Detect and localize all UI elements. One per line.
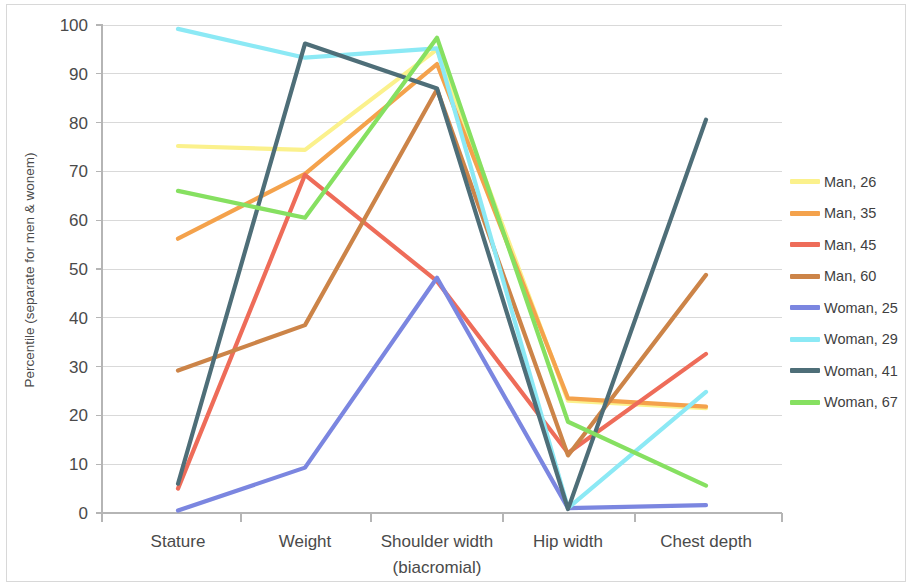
series-line-woman-25 <box>178 278 706 511</box>
line-chart-plot: 0102030405060708090100 StatureWeightShou… <box>0 0 918 587</box>
legend-item[interactable]: Woman, 25 <box>790 292 914 324</box>
y-tick-label: 0 <box>79 504 88 523</box>
legend-item-label: Man, 45 <box>824 238 876 253</box>
legend-item[interactable]: Man, 26 <box>790 166 914 198</box>
x-tick-label: Stature <box>151 532 206 551</box>
legend-item[interactable]: Man, 60 <box>790 261 914 293</box>
y-axis-title: Percentile (separate for men & wonem) <box>22 153 37 388</box>
legend-item-label: Man, 60 <box>824 269 876 284</box>
y-axis-title-group: Percentile (separate for men & wonem) <box>22 153 37 388</box>
y-tick-label: 30 <box>69 358 88 377</box>
y-axis-tick-labels: 0102030405060708090100 <box>60 16 88 523</box>
legend-color-swatch <box>790 242 820 247</box>
legend-item[interactable]: Woman, 67 <box>790 387 914 419</box>
legend-item-label: Woman, 25 <box>824 301 898 316</box>
legend-color-swatch <box>790 274 820 279</box>
y-tick-label: 50 <box>69 260 88 279</box>
legend-color-swatch <box>790 368 820 373</box>
y-tick-label: 60 <box>69 211 88 230</box>
y-tick-label: 100 <box>60 16 88 35</box>
y-tick-label: 80 <box>69 114 88 133</box>
legend-item[interactable]: Woman, 29 <box>790 324 914 356</box>
x-tick-label: Chest depth <box>660 532 752 551</box>
x-tick-label: Hip width <box>533 532 603 551</box>
x-tick-label-secondary: (biacromial) <box>393 558 482 577</box>
chart-legend: Man, 26Man, 35Man, 45Man, 60Woman, 25Wom… <box>790 166 914 418</box>
legend-item-label: Woman, 29 <box>824 332 898 347</box>
legend-color-swatch <box>790 305 820 310</box>
legend-item[interactable]: Man, 45 <box>790 229 914 261</box>
series-line-man-45 <box>178 175 706 489</box>
legend-item-label: Man, 35 <box>824 206 876 221</box>
legend-color-swatch <box>790 400 820 405</box>
legend-color-swatch <box>790 179 820 184</box>
series-line-man-35 <box>178 64 706 407</box>
legend-color-swatch <box>790 337 820 342</box>
y-tick-label: 70 <box>69 162 88 181</box>
legend-color-swatch <box>790 211 820 216</box>
chart-container: 0102030405060708090100 StatureWeightShou… <box>0 0 918 587</box>
series-line-woman-41 <box>178 44 706 510</box>
y-tick-label: 40 <box>69 309 88 328</box>
x-tick-label: Weight <box>279 532 332 551</box>
legend-item-label: Woman, 41 <box>824 364 898 379</box>
data-series-group <box>178 29 706 511</box>
x-axis-tick-labels: StatureWeightShoulder width(biacromial)H… <box>151 532 752 577</box>
legend-item[interactable]: Man, 35 <box>790 198 914 230</box>
y-tick-label: 20 <box>69 406 88 425</box>
x-tick-label: Shoulder width <box>381 532 493 551</box>
y-tick-label: 90 <box>69 65 88 84</box>
legend-item[interactable]: Woman, 41 <box>790 355 914 387</box>
y-tick-label: 10 <box>69 455 88 474</box>
legend-item-label: Woman, 67 <box>824 395 898 410</box>
legend-item-label: Man, 26 <box>824 175 876 190</box>
